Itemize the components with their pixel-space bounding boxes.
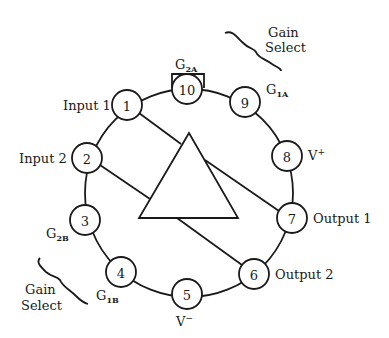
label-g1b: G1B	[96, 288, 119, 305]
gain-select-bottom-line1: Gain	[25, 282, 56, 297]
pin-8: 8	[272, 141, 302, 171]
gain-select-top-line2: Select	[265, 40, 307, 55]
svg-text:3: 3	[81, 214, 89, 229]
label-v-plus: V+	[307, 147, 325, 163]
label-g2b: G2B	[46, 226, 69, 243]
label-output-2: Output 2	[275, 267, 334, 282]
pin-2: 2	[72, 143, 102, 173]
label-input-1: Input 1	[63, 98, 111, 113]
gain-select-bottom-line2: Select	[21, 298, 63, 313]
pin-6: 6	[239, 259, 269, 289]
svg-text:6: 6	[250, 268, 258, 283]
svg-text:5: 5	[183, 288, 191, 303]
pin-3: 3	[70, 205, 100, 235]
svg-text:2: 2	[83, 152, 91, 167]
op-amp-triangle	[139, 133, 238, 218]
pin-5: 5	[172, 279, 202, 309]
pinout-diagram: 1 2 3 4 5 6 7 8 9 10 Input 1 Input 2 G2B…	[0, 0, 389, 338]
label-output-1: Output 1	[313, 211, 372, 226]
svg-text:4: 4	[117, 266, 125, 281]
label-input-2: Input 2	[19, 151, 67, 166]
label-g2a: G2A	[175, 57, 198, 74]
pin-9: 9	[230, 87, 260, 117]
pin-10: 10	[172, 74, 202, 104]
svg-text:9: 9	[241, 96, 249, 111]
svg-text:1: 1	[123, 99, 131, 114]
pin-4: 4	[106, 257, 136, 287]
svg-text:7: 7	[288, 212, 296, 227]
label-v-minus: V−	[175, 313, 193, 329]
wire-amp-to-pin7	[205, 160, 279, 211]
svg-text:10: 10	[179, 83, 196, 98]
wire-pin2-to-amp	[100, 165, 150, 199]
pin-1: 1	[112, 90, 142, 120]
wire-pin1-to-amp	[139, 113, 181, 144]
pin-7: 7	[277, 203, 307, 233]
gain-select-top-line1: Gain	[268, 25, 299, 40]
wire-amp-to-pin6	[177, 218, 242, 265]
svg-text:8: 8	[283, 150, 291, 165]
label-g1a: G1A	[266, 82, 289, 99]
